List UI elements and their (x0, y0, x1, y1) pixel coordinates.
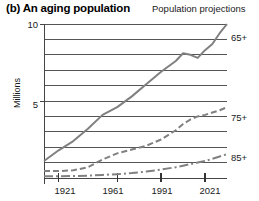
series-label-85plus: 85+ (231, 152, 247, 163)
chart-canvas (0, 0, 259, 201)
x-tick-label-1961: 1961 (93, 185, 133, 196)
series-label-75plus: 75+ (231, 112, 247, 123)
y-axis-label: Millions (12, 63, 22, 123)
series-label-65plus: 65+ (231, 32, 247, 43)
x-tick-label-1921: 1921 (45, 185, 85, 196)
x-tick-label-1991: 1991 (142, 185, 182, 196)
series-line-65plus (44, 24, 227, 161)
series-line-85plus (44, 154, 227, 176)
chart-figure: (b) An aging population Population proje… (0, 0, 259, 201)
y-tick-label-10: 10 (14, 19, 38, 30)
y-tick-label-5: 5 (14, 99, 38, 110)
x-tick-label-2021: 2021 (190, 185, 230, 196)
plot-area: Millions 10 5 1921 1961 1991 2021 65+ 75… (0, 0, 259, 201)
